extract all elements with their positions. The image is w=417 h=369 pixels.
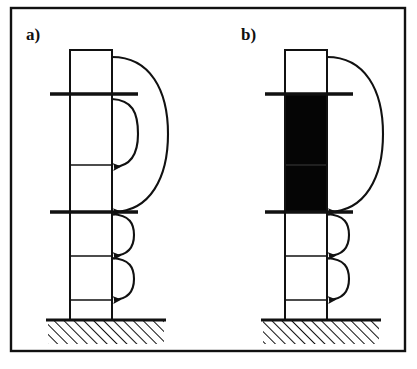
panel-b: b) xyxy=(241,25,383,344)
panel-b-large-arc xyxy=(327,57,383,212)
figure-canvas: a) b) xyxy=(0,0,417,369)
panel-a: a) xyxy=(26,25,168,344)
panel-a-column xyxy=(70,50,112,320)
panel-b-ground-hatch xyxy=(263,320,379,344)
panel-b-small-arc-upper xyxy=(327,214,349,256)
panel-b-small-arc-lower xyxy=(327,258,349,300)
panel-a-large-arc xyxy=(112,57,168,212)
panel-a-label: a) xyxy=(26,25,40,44)
figure-container: a) b) xyxy=(0,0,417,369)
panel-a-mid-arc xyxy=(112,99,138,167)
panel-b-filled-segment-upper xyxy=(285,94,327,165)
panel-a-small-arc-lower xyxy=(112,258,134,300)
panel-a-ground-hatch xyxy=(48,320,164,344)
panel-b-label: b) xyxy=(241,25,256,44)
panel-a-small-arc-upper xyxy=(112,214,134,256)
panel-b-filled-segment-lower xyxy=(285,165,327,212)
